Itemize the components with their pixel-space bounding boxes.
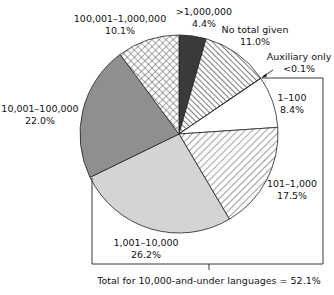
value-101-1000: 17.5% <box>277 190 307 201</box>
label-gt-1m: >1,000,000 <box>176 6 232 17</box>
label-101-1000: 101–1,000 <box>267 178 317 189</box>
label-no-total: No total given <box>222 24 289 35</box>
label-auxiliary: Auxiliary only <box>267 51 332 62</box>
label-1-100: 1–100 <box>278 92 307 103</box>
auxiliary-arrow <box>261 70 273 78</box>
value-1-100: 8.4% <box>280 104 304 115</box>
label-1001-10000: 1,001–10,000 <box>113 237 178 248</box>
value-gt-1m: 4.4% <box>192 18 216 29</box>
value-no-total: 11.0% <box>240 36 270 47</box>
value-auxiliary: <0.1% <box>283 63 315 74</box>
total-annotation: Total for 10,000-and-under languages = 5… <box>96 275 320 286</box>
pie-chart: >1,000,000 4.4% No total given 11.0% Aux… <box>0 0 334 295</box>
value-10001-100000: 22.0% <box>25 115 55 126</box>
label-100001-1m: 100,001–1,000,000 <box>74 13 166 24</box>
value-1001-10000: 26.2% <box>131 249 161 260</box>
pie-slices <box>80 35 278 233</box>
value-100001-1m: 10.1% <box>105 25 135 36</box>
label-10001-100000: 10,001–100,000 <box>1 103 78 114</box>
